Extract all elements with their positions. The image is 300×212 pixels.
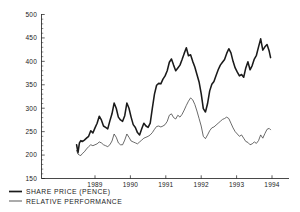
x-tick-label-1991: 1991	[158, 181, 173, 188]
x-tick-label-1992: 1992	[194, 181, 209, 188]
y-tick-label-400: 400	[26, 58, 38, 65]
legend-label-1: SHARE PRICE (PENCE)	[26, 188, 110, 196]
y-tick-label-150: 150	[26, 175, 38, 182]
y-tick-label-200: 200	[26, 151, 38, 158]
y-tick-label-300: 300	[26, 105, 38, 112]
chart-background	[0, 0, 300, 212]
y-tick-label-450: 450	[26, 34, 38, 41]
x-tick-label-1994: 1994	[264, 181, 279, 188]
y-tick-label-350: 350	[26, 81, 38, 88]
y-tick-label-250: 250	[26, 128, 38, 135]
chart-figure: 150200250300350400450500 198919901991199…	[0, 0, 300, 212]
x-tick-label-1993: 1993	[229, 181, 244, 188]
y-tick-label-500: 500	[26, 11, 38, 18]
x-tick-label-1990: 1990	[123, 181, 138, 188]
x-tick-label-1989: 1989	[87, 181, 102, 188]
legend-label-2: RELATIVE PERFORMANCE	[26, 198, 122, 205]
